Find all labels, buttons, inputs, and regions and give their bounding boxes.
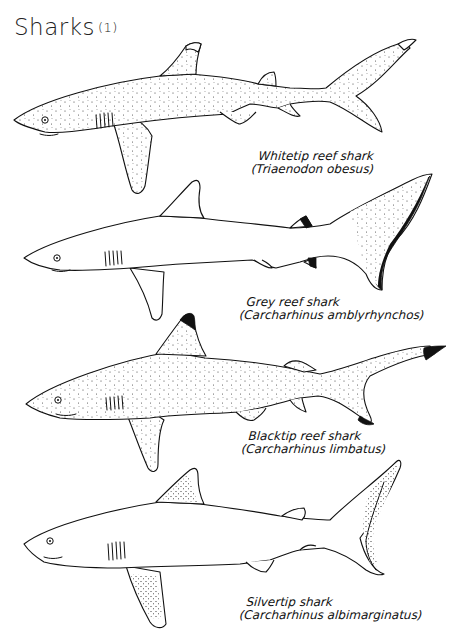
shark-label-silvertip: Silvertip shark (Carcharhinus albimargin… <box>239 596 424 622</box>
blacktip-reef-shark-illustration <box>0 305 455 475</box>
illustration-page: Sharks(1) <box>0 0 455 643</box>
shark-label-blacktip-reef: Blacktip reef shark (Carcharhinus limbat… <box>241 430 387 456</box>
scientific-name: (Carcharhinus albimarginatus) <box>239 609 423 622</box>
